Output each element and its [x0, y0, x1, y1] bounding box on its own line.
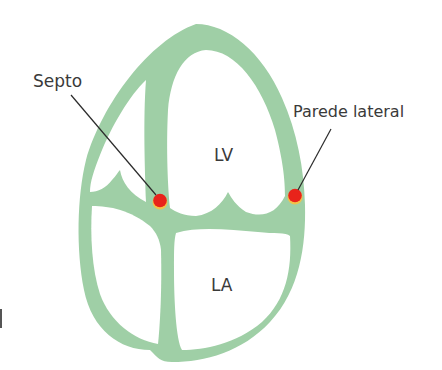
lv-label: LV — [214, 145, 234, 165]
septum-label: Septo — [33, 71, 82, 91]
heart-diagram: Septo Parede lateral LV LA — [0, 0, 442, 370]
la-label: LA — [211, 275, 233, 295]
lateral-wall-leader-line — [298, 129, 331, 190]
lateral-wall-label: Parede lateral — [293, 102, 404, 121]
edge-artifact-line — [0, 309, 2, 328]
